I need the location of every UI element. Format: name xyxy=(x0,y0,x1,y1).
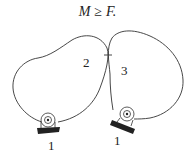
support-right-label: 1 xyxy=(114,133,121,148)
ground-hatch xyxy=(37,127,60,134)
body-2-label: 2 xyxy=(83,55,90,70)
pivot-center-dot xyxy=(47,119,49,121)
support-right: 1 xyxy=(110,107,135,148)
body-3-label: 3 xyxy=(121,63,128,78)
body-3-outline xyxy=(108,31,183,119)
ground-hatch xyxy=(110,120,135,134)
mechanism-diagram: 1 1 2 3 xyxy=(0,0,195,154)
body-2-outline xyxy=(13,36,108,122)
pivot-center-dot xyxy=(126,113,128,115)
support-left-label: 1 xyxy=(48,138,55,153)
support-left: 1 xyxy=(37,113,60,153)
